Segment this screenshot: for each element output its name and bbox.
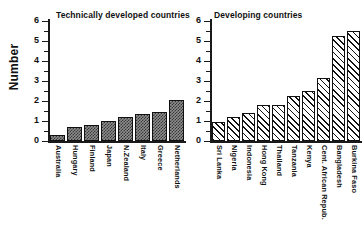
bar-slot [211,21,226,141]
y-tick-label: 6 [34,15,39,26]
y-tick-label: 2 [196,95,201,106]
category-slot: Indonesia [241,145,256,231]
panel-technically-developed-countries: Technically developed countries 6 5 4 3 … [28,0,186,235]
bar [287,96,300,141]
bar-slot [226,21,241,141]
category-slot: Nigeria [226,145,241,231]
bar [169,100,184,141]
bar-slot [346,21,361,141]
bar-group-right [211,21,361,141]
category-slot: N.Zealand [117,145,134,231]
bar [101,121,116,141]
y-tick-label: 1 [34,115,39,126]
bar-slot [134,21,151,141]
category-slot: Greece [151,145,168,231]
category-label: Thailand [274,145,283,176]
category-labels-left: AustraliaHungaryFinlandJapanN.ZealandIta… [49,145,185,231]
bar [317,78,330,141]
category-slot: Tanzania [286,145,301,231]
category-slot: Netherlands [168,145,185,231]
category-label: Japan [104,145,113,167]
bar-slot [256,21,271,141]
bar-slot [301,21,316,141]
x-axis-line [48,141,186,143]
category-slot: Hong Kong [256,145,271,231]
bar-group-left [49,21,185,141]
bar-slot [151,21,168,141]
category-label: Finland [87,145,96,172]
category-label: Bangladesh [334,145,343,188]
bar [332,36,345,141]
category-label: Nigeria [229,145,238,171]
y-tick-label: 2 [34,95,39,106]
bar-slot [168,21,185,141]
y-tick-label: 0 [196,135,201,146]
category-label: Italy [138,145,147,160]
bar [272,105,285,141]
bar [152,112,167,141]
category-slot: Hungary [66,145,83,231]
category-labels-right: Sri LankaNigeriaIndonesiaHong KongThaila… [211,145,361,231]
bar-slot [271,21,286,141]
category-label: Australia [53,145,62,178]
y-tick-label: 1 [196,115,201,126]
bar-slot [117,21,134,141]
category-label: Sri Lanka [214,145,223,179]
category-slot: Sri Lanka [211,145,226,231]
category-label: Indonesia [244,145,253,180]
category-slot: Finland [83,145,100,231]
bar [302,91,315,141]
category-slot: Japan [100,145,117,231]
bar [242,113,255,141]
panel-title: Developing countries [214,10,302,20]
category-label: N.Zealand [121,145,130,181]
bar-slot [49,21,66,141]
category-label: Burkina Faso [349,145,358,193]
category-slot: Kenya [301,145,316,231]
category-label: Netherlands [172,145,181,189]
bar [135,114,150,141]
category-slot: Bangladesh [331,145,346,231]
y-tick-label: 5 [34,35,39,46]
y-axis-label: Number [7,37,21,97]
bar-slot [83,21,100,141]
panel-developing-countries: Developing countries 6 5 4 3 2 1 0 Sri L… [190,0,364,235]
bar [118,117,133,141]
bar [67,127,82,141]
category-slot: Burkina Faso [346,145,361,231]
panel-title: Technically developed countries [56,10,190,20]
x-axis-line [210,141,362,143]
category-slot: Thailand [271,145,286,231]
bar-slot [331,21,346,141]
bar-chart-figure: Number Technically developed countries 6… [0,0,364,235]
y-tick-label: 4 [196,55,201,66]
bar-slot [316,21,331,141]
bar [212,122,225,141]
category-label: Hungary [70,145,79,176]
category-label: Hong Kong [259,145,268,186]
y-tick-label: 5 [196,35,201,46]
category-slot: Italy [134,145,151,231]
category-label: Greece [155,145,164,171]
category-slot: Australia [49,145,66,231]
category-label: Kenya [304,145,313,168]
bar-slot [66,21,83,141]
bar-slot [241,21,256,141]
bar [257,105,270,141]
y-tick-label: 6 [196,15,201,26]
category-slot: Cent. African Repub. [316,145,331,231]
bar [50,135,65,141]
y-tick-label: 0 [34,135,39,146]
bar [227,117,240,141]
y-tick-label: 3 [34,75,39,86]
bar-slot [100,21,117,141]
y-tick-label: 4 [34,55,39,66]
bar [84,125,99,141]
y-tick-label: 3 [196,75,201,86]
category-label: Tanzania [289,145,298,177]
bar [347,31,360,141]
category-label: Cent. African Repub. [319,145,328,220]
bar-slot [286,21,301,141]
